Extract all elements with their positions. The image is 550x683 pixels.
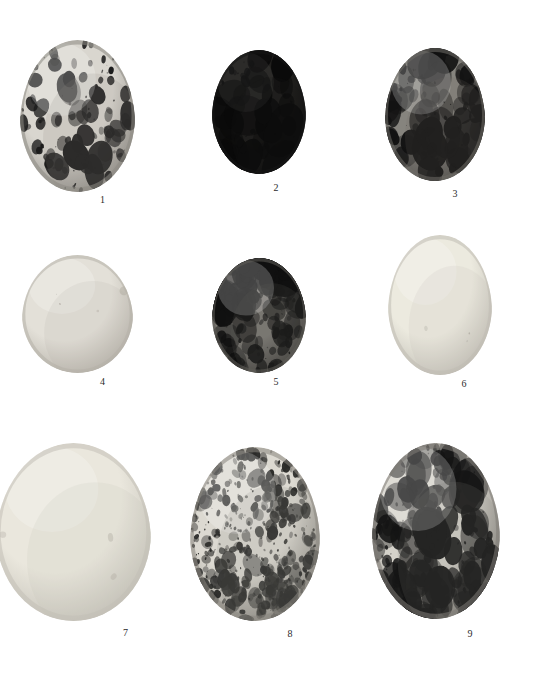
egg-5 <box>212 258 306 373</box>
egg-label-7: 7 <box>96 627 156 639</box>
egg-label-9: 9 <box>440 628 500 640</box>
egg-4 <box>22 255 133 373</box>
egg-label-3: 3 <box>425 188 485 200</box>
egg-3 <box>385 48 485 181</box>
egg-label-6: 6 <box>434 378 494 390</box>
egg-shell-3 <box>385 48 485 181</box>
egg-label-2: 2 <box>246 182 306 194</box>
egg-6 <box>388 235 492 375</box>
egg-label-4: 4 <box>73 376 133 388</box>
egg-8 <box>190 447 320 621</box>
egg-label-1: 1 <box>73 194 133 206</box>
egg-plate: 123456789 <box>0 0 550 683</box>
egg-shell-8 <box>190 447 320 621</box>
egg-9 <box>372 443 500 619</box>
egg-shell-6 <box>388 235 492 375</box>
egg-shell-4 <box>22 255 133 373</box>
egg-label-5: 5 <box>246 376 306 388</box>
egg-1 <box>20 40 135 192</box>
egg-2 <box>212 50 306 174</box>
egg-shell-2 <box>212 50 306 174</box>
egg-shell-1 <box>20 40 135 192</box>
egg-7 <box>0 443 151 621</box>
egg-label-8: 8 <box>260 628 320 640</box>
egg-shell-7 <box>0 443 151 621</box>
egg-shell-5 <box>212 258 306 373</box>
egg-shell-9 <box>372 443 500 619</box>
